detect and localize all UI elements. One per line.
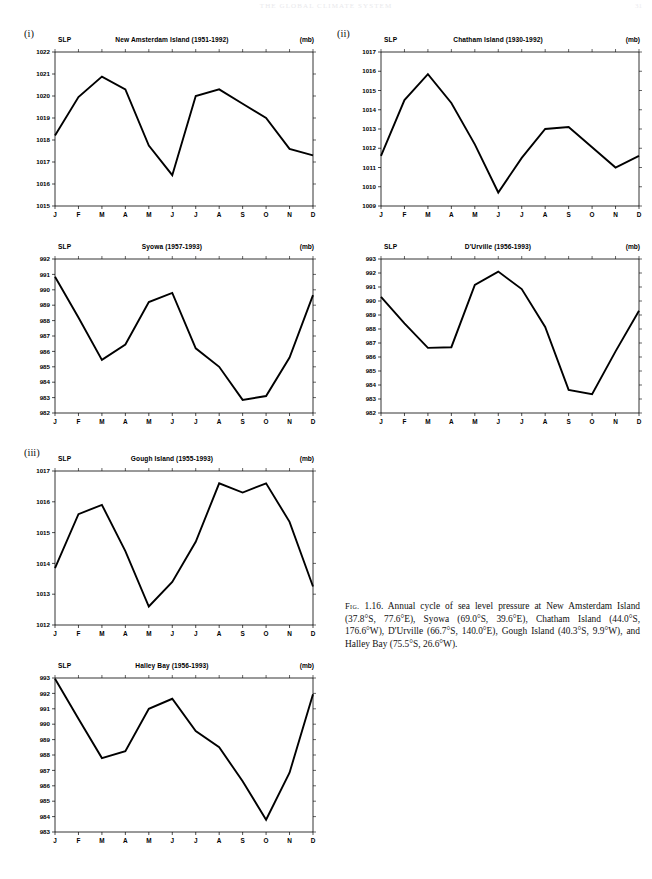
x-tick-label: A — [449, 211, 454, 218]
y-tick-label: 991 — [40, 271, 51, 278]
y-tick-label: 1016 — [36, 498, 50, 505]
caption-text: Annual cycle of sea level pressure at Ne… — [345, 601, 640, 649]
x-tick-label: O — [264, 211, 269, 218]
y-tick-label: 993 — [40, 674, 51, 681]
x-tick-label: J — [170, 418, 174, 425]
x-tick-label: M — [146, 418, 151, 425]
x-tick-label: D — [637, 211, 642, 218]
x-tick-label: A — [217, 418, 222, 425]
x-tick-label: N — [287, 837, 292, 844]
x-tick-label: J — [170, 211, 174, 218]
x-tick-label: J — [379, 418, 383, 425]
plot-area-new-amsterdam-island: 10151016101710181019102010211022JFMAMJJA… — [22, 47, 322, 222]
chart-halley-bay: SLPHalley Bay (1956-1993)(mb)98398498598… — [22, 662, 322, 867]
x-tick-label: M — [425, 418, 430, 425]
x-tick-label: O — [590, 418, 595, 425]
y-tick-label: 1013 — [36, 590, 50, 597]
data-series-gough-island — [55, 483, 313, 606]
chart-chatham-island: SLPChatham Island (1930-1992)(mb)1009101… — [348, 36, 648, 241]
y-tick-label: 985 — [40, 363, 51, 370]
y-tick-label: 983 — [366, 395, 377, 402]
y-tick-label: 1015 — [36, 529, 50, 536]
y-tick-label: 993 — [366, 255, 377, 262]
y-tick-label: 1019 — [36, 114, 50, 121]
chart-title: Syowa (1957-1993) — [22, 243, 322, 250]
x-tick-label: J — [520, 211, 524, 218]
y-tick-label: 1017 — [36, 467, 50, 474]
x-tick-label: A — [449, 418, 454, 425]
y-tick-label: 992 — [366, 269, 377, 276]
x-tick-label: J — [496, 418, 500, 425]
y-tick-label: 990 — [40, 720, 51, 727]
chart-syowa: SLPSyowa (1957-1993)(mb)9829839849859869… — [22, 243, 322, 448]
x-tick-label: A — [217, 211, 222, 218]
x-tick-label: A — [123, 418, 128, 425]
x-tick-label: M — [146, 630, 151, 637]
data-series-new-amsterdam-island — [55, 77, 313, 176]
x-tick-label: J — [170, 837, 174, 844]
y-tick-label: 1016 — [362, 67, 376, 74]
y-tick-label: 1016 — [36, 180, 50, 187]
y-tick-label: 982 — [366, 409, 377, 416]
caption-fig-tag: Fig. — [345, 601, 359, 611]
y-tick-label: 1012 — [362, 144, 376, 151]
page-header: THE GLOBAL CLIMATE SYSTEM — [0, 2, 652, 10]
x-tick-label: A — [123, 211, 128, 218]
y-tick-label: 983 — [40, 394, 51, 401]
x-tick-label: J — [53, 630, 57, 637]
x-tick-label: F — [77, 837, 81, 844]
plot-area-durville: 982983984985986987988989990991992993JFMA… — [348, 254, 648, 429]
y-tick-label: 984 — [40, 378, 51, 385]
y-tick-label: 991 — [40, 705, 51, 712]
x-tick-label: S — [241, 418, 246, 425]
caption-number: 1.16. — [364, 601, 383, 611]
y-tick-label: 989 — [366, 311, 377, 318]
x-tick-label: M — [99, 630, 104, 637]
x-tick-label: N — [287, 211, 292, 218]
y-tick-label: 1012 — [36, 621, 50, 628]
y-tick-label: 983 — [40, 828, 51, 835]
x-tick-label: S — [241, 630, 246, 637]
y-tick-label: 1022 — [36, 48, 50, 55]
y-tick-label: 992 — [40, 690, 51, 697]
x-tick-label: A — [123, 630, 128, 637]
x-tick-label: J — [170, 630, 174, 637]
x-tick-label: J — [194, 837, 198, 844]
data-series-syowa — [55, 277, 313, 400]
x-tick-label: J — [53, 211, 57, 218]
unit-label-mb: (mb) — [300, 455, 314, 462]
x-tick-label: S — [241, 211, 246, 218]
x-tick-label: D — [311, 837, 316, 844]
chart-title: Halley Bay (1956-1993) — [22, 662, 322, 669]
y-tick-label: 989 — [40, 301, 51, 308]
y-tick-label: 982 — [40, 409, 51, 416]
chart-title: Gough Island (1955-1993) — [22, 455, 322, 462]
y-tick-label: 986 — [40, 348, 51, 355]
y-tick-label: 987 — [40, 332, 51, 339]
unit-label-mb: (mb) — [300, 662, 314, 669]
y-tick-label: 985 — [366, 367, 377, 374]
x-tick-label: J — [520, 418, 524, 425]
data-series-halley-bay — [55, 679, 313, 820]
x-tick-label: A — [217, 837, 222, 844]
x-tick-label: M — [99, 418, 104, 425]
x-tick-label: A — [217, 630, 222, 637]
chart-gough-island: SLPGough Island (1955-1993)(mb)101210131… — [22, 455, 322, 660]
x-tick-label: F — [77, 418, 81, 425]
x-tick-label: F — [403, 418, 407, 425]
y-tick-label: 985 — [40, 797, 51, 804]
x-tick-label: O — [264, 418, 269, 425]
y-tick-label: 1013 — [362, 125, 376, 132]
x-tick-label: N — [287, 418, 292, 425]
x-tick-label: N — [287, 630, 292, 637]
x-tick-label: F — [77, 630, 81, 637]
y-tick-label: 991 — [366, 283, 377, 290]
y-tick-label: 986 — [40, 782, 51, 789]
chart-durville: SLPD'Urville (1956-1993)(mb)982983984985… — [348, 243, 648, 448]
y-tick-label: 989 — [40, 736, 51, 743]
y-tick-label: 1017 — [362, 48, 376, 55]
x-tick-label: M — [472, 211, 477, 218]
x-tick-label: J — [53, 418, 57, 425]
x-tick-label: A — [543, 418, 548, 425]
y-tick-label: 984 — [40, 813, 51, 820]
